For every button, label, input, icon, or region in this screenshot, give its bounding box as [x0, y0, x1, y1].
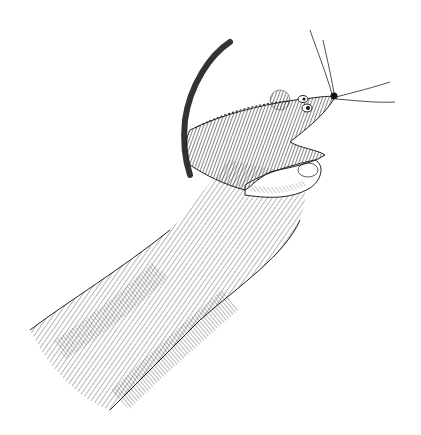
- illustration: [0, 0, 421, 435]
- illustration-drawing: [0, 0, 421, 435]
